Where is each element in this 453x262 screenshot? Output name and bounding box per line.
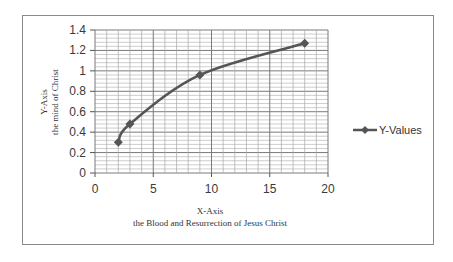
legend: Y-Values xyxy=(353,124,422,136)
y-tick-label: 0.8 xyxy=(69,84,86,98)
x-axis-title: X-Axis xyxy=(197,206,224,216)
y-tick-label: 0 xyxy=(79,166,86,180)
y-tick-label: 0.4 xyxy=(69,125,86,139)
y-tick-label: 1.4 xyxy=(69,23,86,37)
data-point-diamond-icon xyxy=(195,70,204,79)
legend-diamond-marker-icon xyxy=(361,126,369,134)
x-axis-subtitle: the Blood and Resurrection of Jesus Chri… xyxy=(133,218,287,228)
x-tick-label: 10 xyxy=(205,182,219,196)
line-chart: 00.20.40.60.811.21.4 05101520 Y-Axis the… xyxy=(0,0,453,262)
y-tick-label: 1.2 xyxy=(69,43,86,57)
y-tick-label: 0.2 xyxy=(69,146,86,160)
y-axis-ticks: 00.20.40.60.811.21.4 xyxy=(69,23,86,180)
legend-label-y-values: Y-Values xyxy=(379,124,422,136)
plot-grid xyxy=(90,30,328,177)
x-tick-label: 15 xyxy=(263,182,277,196)
x-tick-label: 0 xyxy=(92,182,99,196)
y-tick-label: 0.6 xyxy=(69,105,86,119)
x-axis-ticks: 05101520 xyxy=(92,182,335,196)
data-point-diamond-icon xyxy=(114,138,123,147)
y-axis-subtitle: the mind of Christ xyxy=(50,69,60,135)
x-tick-label: 20 xyxy=(321,182,335,196)
x-tick-label: 5 xyxy=(150,182,157,196)
y-tick-label: 1 xyxy=(79,64,86,78)
y-axis-title: Y-Axis xyxy=(39,89,49,115)
